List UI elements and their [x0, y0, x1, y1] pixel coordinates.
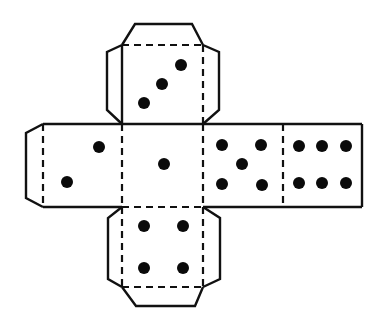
left-tab-outline — [26, 124, 43, 207]
face-top-value: 3 — [160, 80, 161, 81]
top-right-tab-outline — [203, 45, 219, 124]
pip — [293, 140, 305, 152]
top-tab-outline — [122, 24, 203, 45]
dice-net-diagram: 3 2 1 5 6 4 — [0, 0, 388, 333]
pip — [255, 139, 267, 151]
pip — [61, 176, 73, 188]
pip — [175, 59, 187, 71]
middle-band-group — [26, 124, 362, 207]
pip — [138, 262, 150, 274]
face-2-pips — [61, 141, 105, 188]
face-5-pips — [216, 139, 268, 191]
pip — [316, 140, 328, 152]
pip — [138, 220, 150, 232]
top-face-group — [107, 24, 219, 124]
pip — [236, 158, 248, 170]
pip — [177, 262, 189, 274]
pip — [293, 177, 305, 189]
pip — [216, 139, 228, 151]
face-6-pips — [293, 140, 352, 189]
pip — [177, 220, 189, 232]
pip — [156, 78, 168, 90]
face-4-pips — [138, 220, 189, 274]
bottom-right-tab-outline — [203, 207, 220, 287]
pip — [138, 97, 150, 109]
face-center-value: 1 — [160, 160, 161, 161]
pip — [340, 177, 352, 189]
bottom-left-tab-outline — [108, 207, 122, 287]
face-3-pips — [138, 59, 187, 109]
face-bottom-value: 4 — [160, 245, 161, 246]
face-right-value: 5 — [240, 160, 241, 161]
bottom-tab-outline — [122, 287, 203, 306]
pip — [216, 178, 228, 190]
pip — [340, 140, 352, 152]
bottom-face-group — [108, 207, 220, 306]
pip — [316, 177, 328, 189]
face-far-right-value: 6 — [320, 160, 321, 161]
pip — [93, 141, 105, 153]
top-left-tab-outline — [107, 45, 122, 124]
pip — [256, 179, 268, 191]
face-left-value: 2 — [80, 160, 81, 161]
dice-net-svg — [0, 0, 388, 333]
